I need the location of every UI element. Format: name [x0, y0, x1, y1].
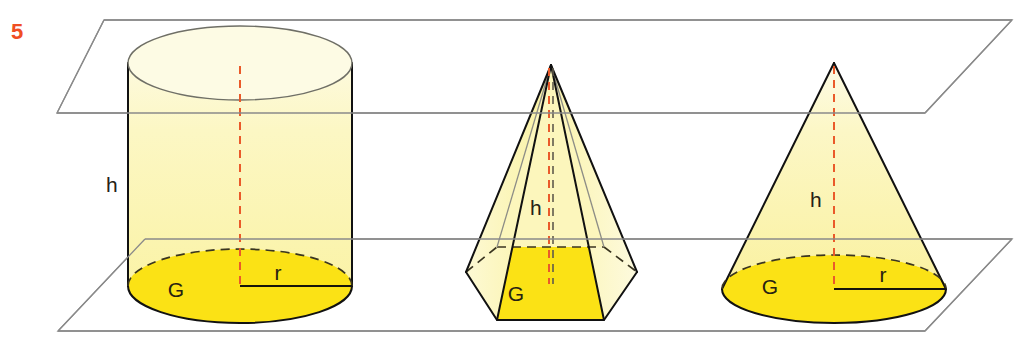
geometry-figure: 5 [0, 0, 1032, 347]
figure-canvas: h G r [0, 0, 1032, 347]
cylinder-radius-label: r [274, 261, 281, 284]
upper-plane-right-edge [925, 20, 1012, 113]
upper-plane-left-edge [57, 20, 104, 113]
cone-height-label: h [810, 188, 822, 211]
solid-cone: h G r [722, 63, 946, 323]
pyramid-height-label: h [530, 196, 542, 219]
pyramid-base-label: G [508, 282, 525, 305]
solid-cylinder: h G r [106, 26, 352, 323]
cone-base-label: G [762, 275, 779, 298]
cylinder-height-label: h [106, 173, 118, 196]
cylinder-base-label: G [168, 278, 185, 301]
solid-pyramid: h G [466, 65, 637, 320]
cone-radius-label: r [879, 263, 886, 286]
